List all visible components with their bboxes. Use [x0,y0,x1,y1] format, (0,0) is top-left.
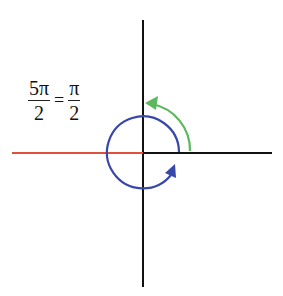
green-arrowhead-icon [145,96,158,110]
coterminal-equation: 5π 2 = π 2 [28,78,80,123]
fraction-right-numerator: π [68,78,80,100]
fraction-left-denominator: 2 [34,101,44,123]
angle-diagram [0,0,283,296]
fraction-left: 5π 2 [28,78,50,123]
fraction-right-denominator: 2 [69,101,79,123]
equals-sign: = [54,90,64,111]
fraction-left-numerator: 5π [28,78,50,100]
fraction-right: π 2 [68,78,80,123]
quarter-turn-arc [152,104,190,151]
